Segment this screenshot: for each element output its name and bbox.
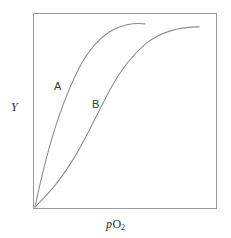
curve-plot-area [34, 14, 216, 208]
curve-label-b: B [92, 99, 99, 110]
x-axis-label-species: O [112, 217, 121, 231]
plot-frame [33, 13, 217, 209]
y-axis-label: Y [11, 101, 18, 113]
curve-a-path [35, 24, 145, 207]
curve-b-path [35, 27, 199, 207]
curve-label-a: A [54, 81, 61, 92]
x-axis-label: pO2 [0, 218, 231, 232]
x-axis-label-subscript: 2 [121, 223, 125, 232]
figure-canvas: A B Y pO2 [0, 0, 231, 238]
